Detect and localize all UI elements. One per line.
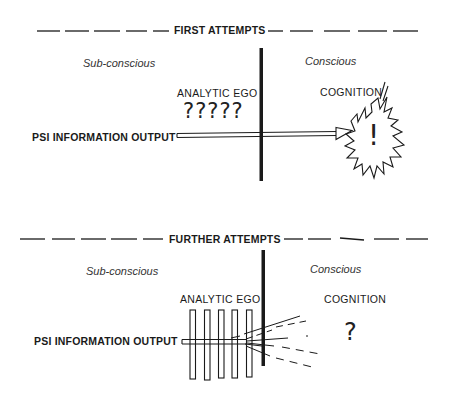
first-subconscious-label: Sub-conscious [83,58,155,69]
question-mark-icon: ? [344,320,357,344]
further-psi-output-label: PSI INFORMATION OUTPUT [34,336,178,347]
first-attempts-title: FIRST ATTEMPTS [171,25,268,36]
analytic-ego-plates [190,310,252,380]
first-psi-arrow [177,128,352,140]
further-attempts-panel [20,238,428,380]
first-psi-output-label: PSI INFORMATION OUTPUT [32,132,176,143]
further-subconscious-label: Sub-conscious [86,266,158,277]
further-analytic-ego-label: ANALYTIC EGO [180,294,260,305]
first-conscious-label: Conscious [305,56,356,67]
further-attempts-title: FURTHER ATTEMPTS [166,234,284,245]
further-conscious-label: Conscious [310,264,361,275]
first-barrier-bar [260,48,264,181]
first-analytic-ego-label: ANALYTIC EGO [177,88,257,99]
further-barrier-bar [262,250,266,366]
diagram: FIRST ATTEMPTS Sub-conscious Conscious A… [0,0,451,406]
ego-plate [205,310,211,380]
scattered-signal-lines [231,316,320,368]
further-cognition-label: COGNITION [324,294,386,305]
exclamation-icon: ! [368,122,379,150]
analytic-ego-question-marks: ????? [183,101,244,122]
first-cognition-label: COGNITION [320,87,382,98]
